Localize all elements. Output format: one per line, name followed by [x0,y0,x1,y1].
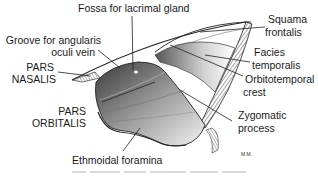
figure-caption-faded [72,171,250,174]
label-groove-angularis-line1: Groove for angularis [2,35,101,46]
label-squama-frontalis-line1: Squama [268,14,307,25]
pars-orbitalis-shape [96,62,206,146]
label-pars-nasalis-line1: PARS [2,62,54,73]
label-facies-temporalis-line1: Facies [254,47,285,58]
artist-signature: M.M. [241,151,252,157]
label-groove-angularis-line2: oculi vein [2,47,95,58]
label-facies-temporalis-line2: temporalis [252,60,300,71]
label-pars-orbitalis-line2: ORBITALIS [2,118,86,129]
label-orbitotemporal-crest-line2: crest [243,87,266,98]
label-orbitotemporal-crest-line1: Orbitotemporal [245,74,314,85]
label-squama-frontalis-line2: frontalis [265,27,302,38]
label-zygomatic-process-line1: Zygomatic [238,110,286,121]
label-fossa-lacrimal-gland: Fossa for lacrimal gland [78,3,189,14]
label-pars-nasalis-line2: NASALIS [2,74,56,85]
label-ethmoidal-foramina: Ethmoidal foramina [72,155,162,166]
label-zygomatic-process-line2: process [238,123,275,134]
label-pars-orbitalis-line1: PARS [2,106,86,117]
